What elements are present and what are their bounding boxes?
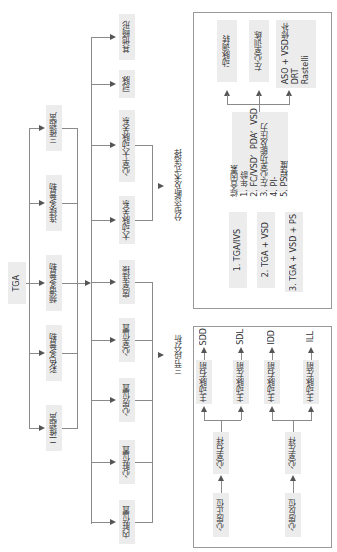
- outcome-lv-training: 左心室训练: [249, 20, 269, 82]
- connector: [272, 412, 273, 420]
- atrium-solitus: 心房正位: [213, 493, 229, 537]
- node-label: 2. TGA + VSD: [261, 222, 271, 277]
- atrium-inversus: 心房反位: [285, 493, 301, 537]
- connector: [62, 283, 78, 284]
- outcome-aso-vsd-drt-rastelli: ASO + VSD修补 DRT Rastelli: [276, 20, 316, 88]
- arrow-icon: [110, 519, 116, 525]
- node-label: ILL: [306, 331, 316, 342]
- arrow-icon: [39, 350, 45, 356]
- tga-diagnosis-diagram: TGA 三维超声 连续多普勒 频谱多普勒 彩色多普勒 二维超声: [0, 0, 337, 552]
- code-idd: IDD: [264, 326, 280, 348]
- ventricle-d-loop: 心室右袢: [213, 432, 229, 474]
- connector: [311, 412, 312, 420]
- connector: [91, 145, 111, 146]
- node-label: 左心室训练: [254, 31, 264, 71]
- code-sdl: SDL: [233, 326, 249, 348]
- arrow-icon: [290, 475, 296, 481]
- node-label: 心室位置: [122, 324, 132, 356]
- arrow-icon: [308, 406, 314, 412]
- connector: [62, 428, 78, 429]
- connector: [289, 95, 290, 104]
- connector: [77, 128, 78, 429]
- segment-ventricle-position: 心室位置: [119, 318, 135, 362]
- connector: [135, 282, 153, 283]
- typing-and-surgery-label: 分型诊断及术式选择: [172, 145, 186, 225]
- segment-atrium-position: 心房位置: [119, 378, 135, 422]
- node-label: 主动脉右前: [199, 362, 209, 402]
- connector: [62, 128, 78, 129]
- connector: [241, 412, 242, 420]
- node-label: 三维超声: [49, 112, 59, 144]
- arrow-icon: [110, 34, 116, 40]
- node-label: 二维超声: [49, 412, 59, 444]
- node-label: 冠脉: [122, 76, 132, 92]
- connector: [204, 353, 205, 360]
- node-label: SDL: [236, 329, 246, 345]
- connector: [91, 37, 92, 524]
- connector: [91, 37, 111, 38]
- connector: [62, 203, 78, 204]
- node-label: 频谱多普勒: [49, 263, 59, 303]
- root-node-tga: TGA: [8, 262, 26, 304]
- node-label: 主动脉右前: [267, 362, 277, 402]
- connector: [204, 412, 205, 420]
- node-label: 心房正位: [216, 499, 226, 531]
- node-label: 主动脉左前: [306, 362, 316, 402]
- arrow-icon: [238, 406, 244, 412]
- arrow-icon: [158, 183, 164, 189]
- connector: [135, 145, 153, 146]
- outcome-arterial-switch: 动脉调转: [217, 20, 237, 82]
- connector: [91, 400, 111, 401]
- arrow-icon: [110, 142, 116, 148]
- connector: [91, 462, 111, 463]
- arrow-icon: [110, 459, 116, 465]
- node-label: 心室右袢: [216, 437, 226, 469]
- node-label: ASO + VSD修补 DRT Rastelli: [281, 23, 311, 84]
- arrow-icon: [39, 280, 45, 286]
- node-label: 主动脉左前: [236, 362, 246, 402]
- connector: [227, 104, 290, 105]
- aorta-right-anterior-2: 主动脉右前: [264, 360, 280, 404]
- analysis-label: 三节段分析: [174, 335, 184, 375]
- arrow-icon: [218, 475, 224, 481]
- connector: [204, 420, 241, 421]
- type-tga-ivs: 1. TGA/IVS: [229, 212, 247, 288]
- imaging-3d-ultrasound: 三维超声: [46, 105, 62, 151]
- connector: [272, 353, 273, 360]
- connector: [135, 340, 153, 341]
- connector: [152, 282, 153, 523]
- connector: [91, 522, 111, 523]
- code-sdd: SDD: [196, 326, 212, 348]
- segment-heart-position: 心脏位置: [119, 440, 135, 484]
- aorta-left-anterior-2: 主动脉左前: [303, 360, 319, 404]
- connector: [135, 220, 153, 221]
- analysis-label: 分型诊断及术式选择: [174, 149, 184, 221]
- imaging-spectral-doppler: 频谱多普勒: [46, 255, 62, 311]
- root-label: TGA: [12, 275, 22, 292]
- aorta-right-anterior: 主动脉右前: [196, 360, 212, 404]
- connector: [29, 128, 30, 429]
- arrow-icon: [39, 125, 45, 131]
- node-label: 1. TGA/IVS: [233, 229, 243, 271]
- arrow-icon: [269, 406, 275, 412]
- factors-text: 综合因素 1. 年龄 2. FC/VSD、PDA、VSD 3. 左心室功能及压力…: [230, 108, 290, 197]
- connector: [227, 95, 228, 104]
- ventricle-l-loop: 心室左袢: [285, 432, 301, 474]
- node-label: 3. TGA + VSD + PS: [289, 214, 299, 291]
- type-tga-vsd-ps: 3. TGA + VSD + PS: [285, 212, 303, 292]
- combined-factors-box: 综合因素 1. 年龄 2. FC/VSD、PDA、VSD 3. 左心室功能及压力…: [232, 112, 288, 192]
- node-label: 大动脉关系: [122, 200, 132, 240]
- segment-av-connection: 房室连接: [119, 260, 135, 304]
- connector: [152, 145, 153, 221]
- node-label: 心室左袢: [288, 437, 298, 469]
- connector: [311, 353, 312, 360]
- connector: [135, 462, 153, 463]
- connector: [241, 353, 242, 360]
- connector: [135, 522, 153, 523]
- connector: [293, 480, 294, 493]
- arrow-icon: [39, 425, 45, 431]
- code-ill: ILL: [303, 326, 319, 348]
- imaging-2d-ultrasound: 二维超声: [46, 405, 62, 451]
- connector: [221, 480, 222, 493]
- node-label: 心脏位置: [122, 446, 132, 478]
